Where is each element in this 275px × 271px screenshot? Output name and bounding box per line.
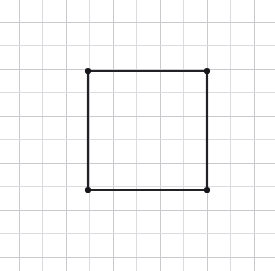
vertex-marker-top-right	[204, 68, 210, 74]
square-figure	[0, 0, 275, 271]
vertex-marker-top-left	[85, 68, 91, 74]
geometry-figure-canvas: ▔ ▔▔ ▔ ▔▔▔ ▔▔ ▔ ▔▔▔▔ ▔▔ ▔▔▔ ▔ ▔▔	[0, 0, 275, 271]
vertex-marker-bottom-left	[85, 187, 91, 193]
vertex-marker-bottom-right	[204, 187, 210, 193]
